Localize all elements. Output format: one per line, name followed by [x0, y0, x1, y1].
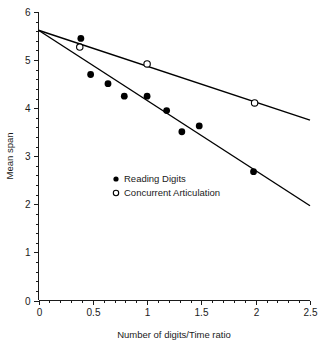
x-axis-major-ticks	[40, 301, 311, 306]
data-point-open	[77, 44, 83, 50]
data-point-filled	[105, 80, 112, 87]
y-axis-major-ticks	[34, 13, 39, 302]
legend-label: Reading Digits	[124, 173, 186, 184]
legend-label: Concurrent Articulation	[124, 187, 220, 198]
legend-marker-filled	[113, 176, 118, 181]
y-tick-label: 1	[25, 247, 31, 258]
data-point-filled	[121, 93, 128, 100]
x-tick-label: 2.5	[304, 307, 318, 318]
legend-marker-open	[113, 190, 118, 195]
y-tick-label: 6	[25, 7, 31, 18]
y-axis-tick-labels: 0123456	[25, 7, 31, 307]
y-axis-group: 0123456 Mean span	[4, 7, 39, 307]
y-axis-title: Mean span	[4, 132, 15, 179]
chart-legend: Reading DigitsConcurrent Articulation	[113, 173, 220, 198]
y-tick-label: 4	[25, 103, 31, 114]
data-point-filled	[163, 107, 170, 114]
scatter-plot: 0123456 Mean span 00.511.522.5 Number of…	[0, 0, 327, 348]
y-tick-label: 0	[25, 296, 31, 307]
x-axis-tick-labels: 00.511.522.5	[37, 307, 318, 318]
x-axis-group: 00.511.522.5 Number of digits/Time ratio	[37, 301, 318, 341]
data-point-filled	[87, 71, 94, 78]
data-point-filled	[144, 93, 151, 100]
data-point-filled	[178, 128, 185, 135]
x-tick-label: 1	[145, 307, 151, 318]
x-axis-title: Number of digits/Time ratio	[117, 329, 231, 340]
chart-page: 0123456 Mean span 00.511.522.5 Number of…	[0, 0, 327, 348]
y-tick-label: 3	[25, 151, 31, 162]
y-tick-label: 2	[25, 199, 31, 210]
x-tick-label: 0	[37, 307, 43, 318]
x-tick-label: 1.5	[195, 307, 209, 318]
y-tick-label: 5	[25, 55, 31, 66]
data-point-filled	[77, 35, 84, 42]
data-point-filled	[250, 168, 257, 175]
data-point-open	[144, 61, 150, 67]
data-point-filled	[196, 123, 203, 130]
data-point-open	[251, 100, 257, 106]
x-tick-label: 0.5	[87, 307, 101, 318]
x-tick-label: 2	[254, 307, 260, 318]
